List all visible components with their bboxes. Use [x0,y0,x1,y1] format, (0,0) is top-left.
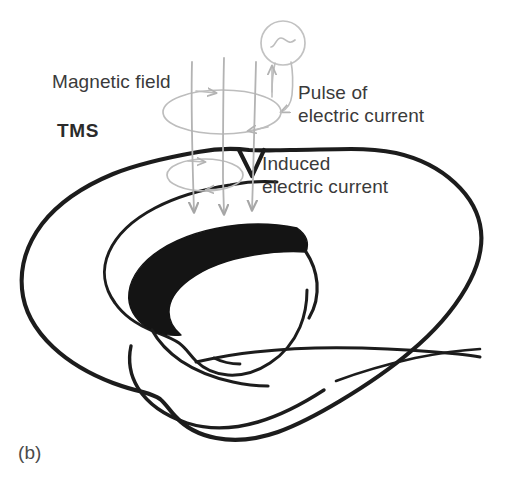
tms-figure: Magnetic field TMS Pulse ofelectric curr… [0,0,510,490]
panel-caption: (b) [18,441,42,464]
magnetic-field-label: Magnetic field [52,70,171,93]
magnetic-field-line-center [223,58,224,214]
coil-wire-outer [281,62,293,112]
induced-label-line-2: electric current [262,176,388,197]
stimulator-source-circle [261,21,305,65]
pulse-label-line-1: Pulse of [298,82,367,103]
induced-label-line-1: Induced [262,153,330,174]
induced-loop-arrow-top [188,161,205,162]
brain-outline [22,149,482,440]
induced-loop-arrow-bottom [206,189,222,190]
coil-loop-arrow-top [196,91,216,93]
pulse-of-electric-current-label: Pulse ofelectric current [298,81,424,127]
pulse-label-line-2: electric current [298,105,424,126]
coil-loop-arrow-bottom [248,127,268,131]
induced-electric-current-label: Inducedelectric current [262,152,388,198]
tms-label: TMS [57,119,99,142]
brain-group [22,149,482,440]
